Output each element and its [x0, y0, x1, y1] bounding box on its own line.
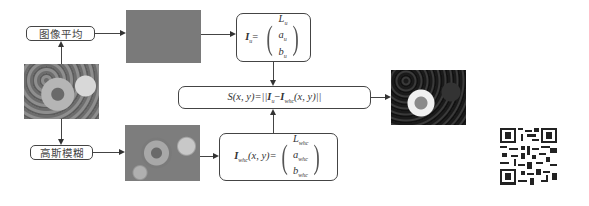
- connector-mean-down: [273, 62, 274, 80]
- mean-lhs: Iu=: [245, 31, 258, 44]
- vector-a: awhc: [293, 149, 308, 165]
- mean-vector: ( Lu au bu ): [264, 13, 302, 61]
- image-average-text: 图像平均: [39, 26, 83, 41]
- image-average-label: 图像平均: [26, 26, 95, 41]
- gaussian-blur-text: 高斯模糊: [40, 145, 84, 160]
- arrow-up-icon: [58, 41, 64, 47]
- saliency-map-image: [391, 70, 466, 125]
- mean-color-image: [126, 10, 201, 63]
- blurred-vector: ( Lwhc awhc bwhc ): [279, 133, 323, 181]
- connector-blurred-up: [273, 115, 274, 133]
- qr-code[interactable]: [500, 127, 557, 185]
- saliency-equation: S(x, y)=||Iu−Iwhc(x, y)||: [228, 91, 322, 104]
- connector-input-down: [61, 119, 62, 139]
- gaussian-blur-label: 高斯模糊: [30, 145, 93, 160]
- arrow-up-icon: [270, 109, 276, 115]
- connector-average: [95, 33, 120, 34]
- blurred-vector-box: Iwhc(x, y)= ( Lwhc awhc bwhc ): [219, 133, 338, 181]
- vector-b: bwhc: [293, 165, 308, 181]
- vector-b: bu: [279, 46, 287, 62]
- connector-saliency-out: [371, 97, 385, 98]
- left-paren: (: [281, 140, 287, 174]
- connector-input-up: [61, 47, 62, 64]
- right-paren: ): [314, 140, 320, 174]
- right-paren: ): [293, 21, 299, 55]
- connector-mean: [201, 34, 230, 35]
- vector-L: Lwhc: [293, 133, 309, 149]
- saliency-equation-box: S(x, y)=||Iu−Iwhc(x, y)||: [178, 86, 371, 109]
- connector-gaussian: [93, 152, 119, 153]
- mean-vector-box: Iu= ( Lu au bu ): [236, 13, 311, 62]
- blurred-lhs: Iwhc(x, y)=: [234, 150, 276, 163]
- vector-L: Lu: [279, 13, 288, 29]
- connector-blurred: [200, 156, 213, 157]
- input-image: [24, 64, 99, 119]
- left-paren: (: [267, 21, 273, 55]
- blurred-image: [125, 125, 200, 181]
- vector-a: au: [279, 29, 287, 45]
